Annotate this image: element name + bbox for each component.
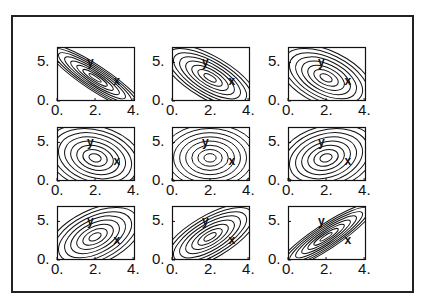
contour-panel: yx0.5.0.2.4. — [288, 127, 366, 181]
variable-label-y: y — [318, 135, 325, 149]
contour-line — [304, 60, 348, 96]
variable-label-y: y — [87, 214, 94, 228]
x-tick-label: 4. — [242, 182, 255, 197]
x-tick-label: 4. — [127, 182, 140, 197]
y-tick-label: 0. — [268, 172, 281, 187]
variable-label-y: y — [87, 135, 94, 149]
contour-line — [174, 133, 247, 183]
y-tick-label: 0. — [37, 251, 50, 266]
x-tick-label: 4. — [127, 261, 140, 276]
contour-line — [311, 66, 341, 90]
x-tick-label: 4. — [358, 182, 371, 197]
contour-panel: yx0.5.0.2.4. — [172, 206, 250, 260]
x-tick-label: 4. — [358, 261, 371, 276]
x-tick-label: 0. — [282, 261, 295, 276]
x-tick-label: 0. — [51, 102, 64, 117]
contour-line — [319, 152, 333, 163]
variable-label-y: y — [202, 214, 209, 228]
y-tick-label: 5. — [268, 53, 281, 68]
contour-panel: yx0.5.0.2.4. — [57, 127, 135, 181]
x-tick-label: 4. — [242, 261, 255, 276]
contour-line — [88, 231, 103, 243]
contour-panel: yx0.5.0.2.4. — [172, 127, 250, 181]
x-tick-label: 0. — [166, 182, 179, 197]
contour-line — [186, 141, 235, 175]
y-tick-label: 0. — [152, 172, 165, 187]
y-tick-label: 0. — [37, 92, 50, 107]
contour-line — [203, 72, 218, 84]
contour-line — [319, 72, 334, 84]
contour-panel: yx0.5.0.2.4. — [57, 206, 135, 260]
x-tick-label: 2. — [89, 261, 102, 276]
contour-panel: yx0.5.0.2.4. — [172, 47, 250, 101]
y-tick-label: 0. — [152, 92, 165, 107]
x-tick-label: 2. — [204, 182, 217, 197]
y-tick-label: 0. — [268, 92, 281, 107]
y-tick-label: 0. — [152, 251, 165, 266]
y-tick-label: 0. — [268, 251, 281, 266]
contour-line — [312, 147, 340, 169]
variable-label-x: x — [114, 233, 121, 247]
y-tick-label: 5. — [152, 53, 165, 68]
variable-label-y: y — [87, 55, 94, 69]
variable-label-x: x — [229, 154, 236, 168]
variable-label-x: x — [345, 74, 352, 88]
contour-line — [74, 141, 117, 175]
contour-panel: yx0.5.0.2.4. — [288, 206, 366, 260]
x-tick-label: 0. — [166, 261, 179, 276]
x-tick-label: 4. — [127, 102, 140, 117]
x-tick-label: 2. — [89, 182, 102, 197]
y-tick-label: 5. — [152, 133, 165, 148]
contour-line — [203, 231, 218, 243]
contour-line — [81, 147, 109, 169]
x-tick-label: 0. — [282, 182, 295, 197]
variable-label-y: y — [318, 214, 325, 228]
x-tick-label: 2. — [204, 261, 217, 276]
y-tick-label: 5. — [268, 212, 281, 227]
x-tick-label: 2. — [89, 102, 102, 117]
x-tick-label: 0. — [166, 102, 179, 117]
variable-label-x: x — [229, 74, 236, 88]
variable-label-y: y — [318, 55, 325, 69]
x-tick-label: 0. — [282, 102, 295, 117]
x-tick-label: 2. — [320, 182, 333, 197]
y-tick-label: 0. — [37, 172, 50, 187]
contour-line — [73, 219, 117, 255]
contour-panel: yx0.5.0.2.4. — [57, 47, 135, 101]
contour-line — [195, 66, 224, 89]
x-tick-label: 0. — [51, 261, 64, 276]
variable-label-y: y — [202, 135, 209, 149]
variable-label-x: x — [345, 154, 352, 168]
contour-line — [80, 225, 110, 249]
variable-label-x: x — [345, 233, 352, 247]
y-tick-label: 5. — [268, 133, 281, 148]
variable-label-x: x — [114, 74, 121, 88]
y-tick-label: 5. — [37, 53, 50, 68]
y-tick-label: 5. — [37, 212, 50, 227]
contour-line — [195, 225, 224, 248]
x-tick-label: 4. — [358, 102, 371, 117]
variable-label-x: x — [229, 233, 236, 247]
x-tick-label: 4. — [242, 102, 255, 117]
contour-line — [88, 152, 102, 163]
contour-line — [204, 154, 216, 162]
plot-box — [173, 48, 250, 101]
y-tick-label: 5. — [152, 212, 165, 227]
contour-panel: yx0.5.0.2.4. — [288, 47, 366, 101]
x-tick-label: 2. — [204, 102, 217, 117]
variable-label-x: x — [114, 154, 121, 168]
x-tick-label: 2. — [320, 102, 333, 117]
variable-label-y: y — [202, 55, 209, 69]
contour-line — [198, 149, 222, 166]
x-tick-label: 2. — [320, 261, 333, 276]
x-tick-label: 0. — [51, 182, 64, 197]
contour-line — [305, 141, 348, 175]
y-tick-label: 5. — [37, 133, 50, 148]
